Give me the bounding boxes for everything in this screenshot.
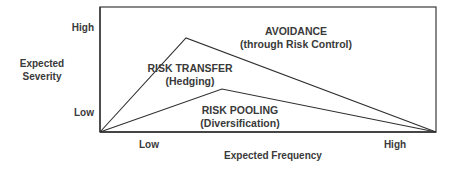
y-axis-title-line1: Expected [20,58,64,70]
x-axis-low-label: Low [139,139,159,151]
avoidance-title: AVOIDANCE [265,25,327,37]
y-axis-title-line2: Severity [23,71,62,83]
x-axis-high-label: High [384,139,406,151]
y-axis-high-label: High [72,22,94,34]
y-axis-low-label: Low [74,107,94,119]
x-axis-title: Expected Frequency [224,150,322,162]
risk-transfer-subtitle: (Hedging) [166,75,215,87]
risk-pooling-subtitle: (Diversification) [200,117,279,129]
avoidance-subtitle: (through Risk Control) [240,38,352,50]
risk-transfer-title: RISK TRANSFER [147,62,232,74]
risk-pooling-title: RISK POOLING [202,104,278,116]
risk-management-diagram: High Expected Severity Low Low High Expe… [0,0,458,170]
